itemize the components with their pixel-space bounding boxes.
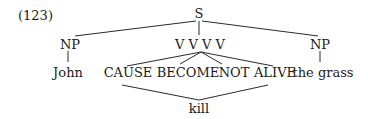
- leaf-the-grass: the grass: [292, 66, 353, 79]
- node-vvvv: V V V V: [175, 38, 225, 51]
- example-number: (123): [18, 9, 53, 22]
- syntax-tree-diagram: (123) S NP V V V V NP John CAUSE BECOME …: [0, 0, 368, 119]
- leaf-not: NOT: [219, 66, 250, 79]
- edge-cause-kill: [122, 85, 199, 100]
- edge-v-cause: [127, 52, 201, 66]
- edge-alive-kill: [199, 85, 268, 100]
- node-np-object: NP: [310, 38, 330, 51]
- node-s: S: [195, 7, 204, 20]
- node-np-subject: NP: [60, 38, 80, 51]
- leaf-cause: CAUSE: [104, 66, 153, 79]
- edge-v-alive: [201, 52, 273, 66]
- leaf-john: John: [53, 66, 83, 79]
- tree-edges: [0, 0, 368, 119]
- lexical-kill: kill: [189, 102, 209, 115]
- edge-s-np-right: [202, 21, 318, 36]
- leaf-alive: ALIVE: [254, 66, 296, 79]
- edge-s-np-left: [75, 21, 196, 36]
- leaf-become: BECOME: [157, 66, 219, 79]
